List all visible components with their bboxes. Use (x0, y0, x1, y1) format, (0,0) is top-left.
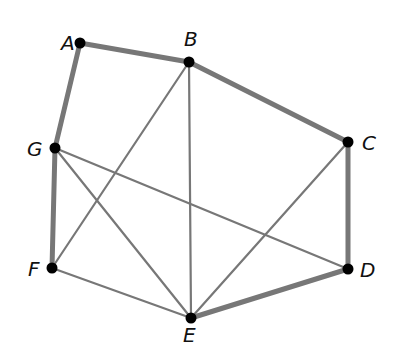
node-D (343, 264, 354, 275)
edge-G-A (55, 43, 80, 148)
edge-F-G (52, 148, 55, 268)
edge-A-B (80, 43, 189, 62)
edge-D-E (191, 269, 348, 318)
node-A (75, 38, 86, 49)
node-label-B: B (184, 27, 198, 51)
node-E (186, 313, 197, 324)
node-label-D: D (360, 258, 375, 282)
node-label-A: A (59, 31, 75, 55)
node-label-G: G (27, 137, 43, 161)
node-C (343, 137, 354, 148)
labels: ABCDEFG (27, 27, 376, 347)
edge-B-E (189, 62, 191, 318)
node-label-F: F (28, 257, 40, 281)
edges (52, 43, 348, 318)
node-G (50, 143, 61, 154)
node-label-C: C (362, 131, 376, 155)
edge-G-D (55, 148, 348, 269)
edge-B-F (52, 62, 189, 268)
edge-B-C (189, 62, 348, 142)
node-B (184, 57, 195, 68)
node-F (47, 263, 58, 274)
node-label-E: E (183, 323, 196, 347)
graph-diagram: ABCDEFG (0, 0, 397, 362)
